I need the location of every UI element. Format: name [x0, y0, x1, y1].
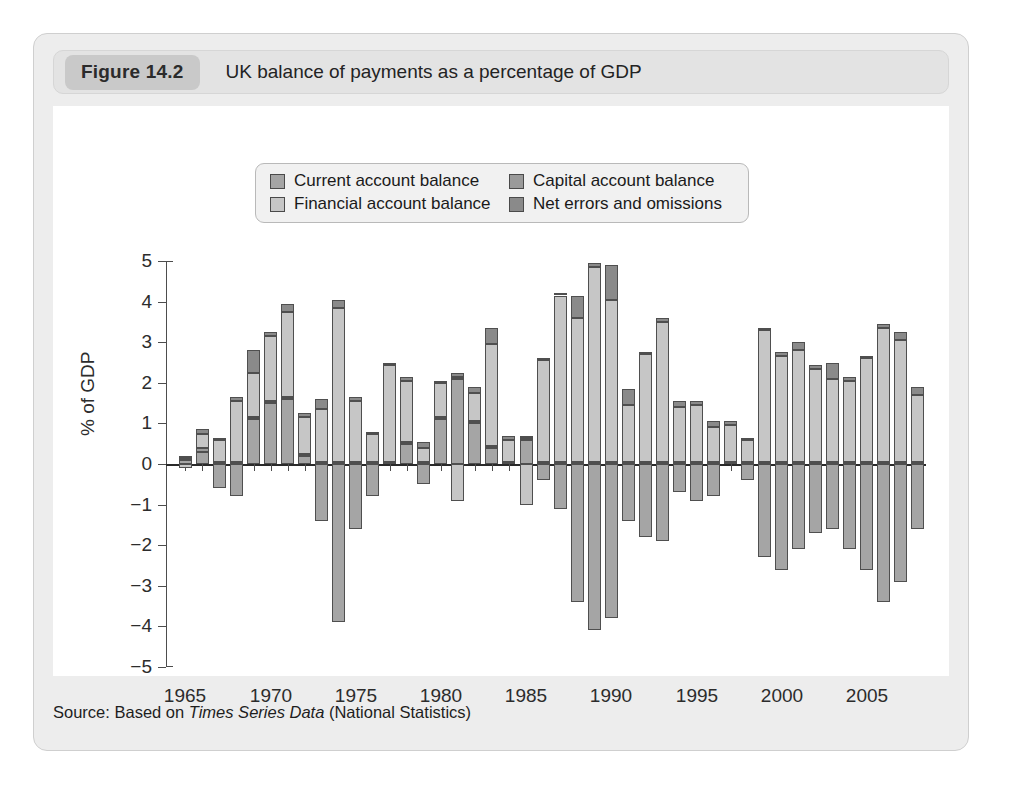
legend-swatch-net-errors-and-omissions [509, 197, 524, 212]
bar-segment [400, 377, 413, 381]
bar-segment [417, 464, 430, 484]
y-tick [158, 423, 166, 424]
bar-segment [673, 407, 686, 462]
bar-segment [673, 462, 686, 464]
bar-segment [843, 464, 856, 549]
bar-segment [877, 324, 890, 328]
bar-segment [724, 425, 737, 462]
bar-segment [247, 419, 260, 464]
y-tick [158, 626, 166, 627]
bar-segment [605, 464, 618, 618]
bar-segment [877, 464, 890, 602]
bar-segment [281, 397, 294, 399]
y-tick-label: −3 [130, 575, 152, 597]
bar-segment [537, 358, 550, 360]
y-tick-label: −4 [130, 615, 152, 637]
bar-segment [366, 462, 379, 464]
chart-legend: Current account balance Capital account … [255, 163, 749, 223]
bar-segment [247, 417, 260, 419]
bar-segment [707, 427, 720, 462]
source-title: Times Series Data [189, 703, 325, 721]
bar-segment [639, 462, 652, 464]
y-tick-label: −5 [130, 656, 152, 678]
y-tick [158, 505, 166, 506]
bar-segment [383, 462, 396, 464]
bar-segment [809, 462, 822, 464]
bar-segment [656, 462, 669, 464]
bar-segment [332, 464, 345, 622]
source-note: Source: Based on Times Series Data (Nati… [53, 703, 471, 722]
bar-segment [707, 462, 720, 464]
bar-segment [383, 363, 396, 365]
bar-segment [264, 336, 277, 401]
figure-root: Figure 14.2 UK balance of payments as a … [0, 0, 1013, 792]
bar-segment [758, 462, 771, 464]
bar-segment [707, 464, 720, 496]
bar-segment [366, 434, 379, 462]
bar-segment [775, 462, 788, 464]
bar-segment [349, 401, 362, 462]
bar-segment [860, 462, 873, 464]
bar-segment [417, 442, 430, 448]
bar-segment [860, 464, 873, 570]
figure-header: Figure 14.2 UK balance of payments as a … [53, 50, 949, 94]
bar-segment [468, 423, 481, 464]
bar-segment [264, 403, 277, 464]
bar-segment [468, 421, 481, 423]
bar-segment [332, 462, 345, 464]
bar-segment [741, 464, 754, 480]
bar-segment [554, 293, 567, 295]
y-axis-label: % of GDP [77, 352, 99, 436]
bar-segment [196, 434, 209, 448]
bar-segment [809, 365, 822, 369]
source-bar: Source: Based on Times Series Data (Nati… [53, 689, 949, 735]
bar-segment [434, 381, 447, 383]
legend-swatch-current-account-balance [270, 174, 285, 189]
bar-segment [298, 413, 311, 417]
bar-segment [690, 405, 703, 462]
bar-segment [400, 444, 413, 464]
bar-segment [383, 365, 396, 462]
bar-segment [894, 340, 907, 462]
bar-segment [196, 429, 209, 433]
bar-segment [843, 381, 856, 462]
bar-segment [196, 452, 209, 464]
bar-segment [571, 462, 584, 464]
bar-segment [656, 318, 669, 322]
bar-segment [877, 328, 890, 462]
bar-segment [843, 377, 856, 381]
bar-segment [707, 421, 720, 427]
bar-segment [230, 401, 243, 462]
bar-segment [588, 464, 601, 630]
legend-label-net-errors-and-omissions: Net errors and omissions [533, 194, 722, 214]
bar-segment [911, 395, 924, 462]
bar-segment [485, 448, 498, 464]
bar-segment [571, 464, 584, 602]
bar-segment [724, 462, 737, 464]
bar-segment [826, 462, 839, 464]
bar-segment [179, 458, 192, 460]
source-suffix: (National Statistics) [324, 703, 471, 721]
bar-segment [247, 350, 260, 372]
y-tick [158, 464, 166, 465]
bar-segment [520, 436, 533, 438]
bar-segment [860, 358, 873, 462]
bar-segment [520, 440, 533, 464]
y-tick-label: 0 [141, 453, 152, 475]
y-tick-label: 2 [141, 372, 152, 394]
y-tick [158, 667, 166, 668]
bar-segment [281, 312, 294, 397]
bar-segment [537, 462, 550, 464]
bar-segment [281, 304, 294, 312]
bar-segment [298, 417, 311, 454]
bar-segment [877, 462, 890, 464]
bar-segment [434, 383, 447, 418]
bar-segment [485, 344, 498, 446]
bar-segment [298, 456, 311, 464]
bar-segment [485, 446, 498, 448]
bar-segment [622, 462, 635, 464]
bar-segment [792, 350, 805, 462]
bar-segment [468, 393, 481, 421]
bar-segment [230, 462, 243, 464]
bar-segment [451, 377, 464, 379]
